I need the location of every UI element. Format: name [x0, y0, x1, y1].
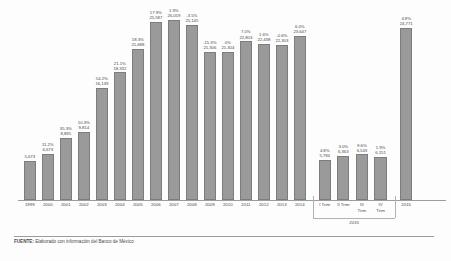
- bar-rect[interactable]: [240, 41, 252, 200]
- bar-slot[interactable]: 1.9%26,059: [168, 8, 180, 200]
- bar-amount-label: 21,306: [203, 45, 216, 50]
- x-tick-2010: 2010: [218, 202, 238, 207]
- bar-value-label: 54.2%16,139: [95, 76, 108, 86]
- bar-slot[interactable]: 4.8%24,771: [400, 8, 412, 200]
- bar-rect[interactable]: [132, 49, 144, 200]
- bar-rect[interactable]: [96, 88, 108, 200]
- bar-value-label: 1.9%6,151: [375, 145, 386, 155]
- bar-value-label: 35.3%8,895: [60, 126, 72, 136]
- bar-amount-label: 18,332: [113, 66, 126, 71]
- source-label: FUENTE:: [14, 239, 34, 244]
- x-tick-2000: 2000: [38, 202, 58, 207]
- bar-amount-label: 8,895: [61, 131, 72, 136]
- bar-slot[interactable]: 54.2%16,139: [96, 8, 108, 200]
- bar-value-label: 9.6%6,543: [357, 143, 368, 153]
- bar-rect[interactable]: [186, 25, 198, 200]
- bar-value-label: 21.1%18,332: [113, 61, 126, 71]
- bar-value-label: -0.6%22,303: [275, 33, 288, 43]
- bar-amount-label: 22,803: [239, 35, 252, 40]
- bar-amount-label: 5,673: [25, 154, 36, 159]
- bar-rect[interactable]: [114, 72, 126, 200]
- bar-rect[interactable]: [258, 44, 270, 200]
- bar-amount-label: 5,794: [319, 153, 330, 158]
- group-separator: [395, 196, 396, 218]
- chart-canvas: 5,67311.2%6,67335.3%8,89510.3%9,81454.2%…: [0, 0, 451, 261]
- bar-value-label: 18.3%21,688: [131, 37, 144, 47]
- bar-chart-plot-area: 5,67311.2%6,67335.3%8,89510.3%9,81454.2%…: [18, 8, 446, 200]
- quarter-group-underline: [313, 218, 395, 219]
- group-separator: [313, 196, 314, 218]
- source-note: FUENTE: Elaborado con información del Ba…: [14, 239, 134, 244]
- bar-rect[interactable]: [204, 52, 216, 200]
- bar-slot[interactable]: 0%21,304: [222, 8, 234, 200]
- bar-slot[interactable]: 3.0%6,363: [337, 8, 349, 200]
- bar-rect[interactable]: [276, 45, 288, 200]
- bar-value-label: 10.3%9,814: [78, 120, 90, 130]
- x-tick-2001: 2001: [56, 202, 76, 207]
- bar-slot[interactable]: 35.3%8,895: [60, 8, 72, 200]
- bar-slot[interactable]: 17.9%25,587: [150, 8, 162, 200]
- bar-slot[interactable]: 1.9%6,151: [374, 8, 386, 200]
- bar-amount-label: 6,673: [43, 147, 54, 152]
- bar-rect[interactable]: [400, 28, 412, 200]
- x-tick-ii-trim: II Trim: [333, 202, 353, 208]
- x-tick-2012: 2012: [254, 202, 274, 207]
- x-tick-2007: 2007: [164, 202, 184, 207]
- x-tick-2004: 2004: [110, 202, 130, 207]
- bar-slot[interactable]: -15.3%21,306: [204, 8, 216, 200]
- bar-slot[interactable]: 5,673: [24, 8, 36, 200]
- bar-rect[interactable]: [319, 160, 331, 200]
- bar-amount-label: 21,304: [221, 45, 234, 50]
- bar-value-label: 4.8%24,771: [400, 16, 413, 26]
- bar-value-label: -3.5%25,145: [185, 13, 198, 23]
- x-tick-2005: 2005: [128, 202, 148, 207]
- source-text: Elaborado con información del Banco de M…: [35, 239, 134, 244]
- bar-rect[interactable]: [356, 154, 368, 200]
- bar-value-label: 1.9%26,059: [167, 8, 180, 18]
- bar-amount-label: 22,303: [275, 38, 288, 43]
- bar-slot[interactable]: 6.0%23,647: [294, 8, 306, 200]
- x-tick-2014: 2014: [290, 202, 310, 207]
- bar-slot[interactable]: 21.1%18,332: [114, 8, 126, 200]
- bar-rect[interactable]: [294, 36, 306, 201]
- bar-rect[interactable]: [222, 52, 234, 200]
- x-tick-2008: 2008: [182, 202, 202, 207]
- bar-amount-label: 26,059: [167, 13, 180, 18]
- bar-value-label: 17.9%25,587: [149, 10, 162, 20]
- bar-value-label: 6.0%23,647: [293, 24, 306, 34]
- x-tick-2015: 2015: [396, 202, 416, 207]
- bar-rect[interactable]: [150, 22, 162, 200]
- bar-rect[interactable]: [337, 156, 349, 200]
- x-tick-iii-trim: IIITrim: [352, 202, 372, 213]
- bar-value-label: 11.2%6,673: [42, 142, 54, 152]
- bar-rect[interactable]: [24, 161, 36, 200]
- bar-slot[interactable]: 7.0%22,803: [240, 8, 252, 200]
- footer-divider: [14, 236, 434, 237]
- x-tick-2006: 2006: [146, 202, 166, 207]
- bar-rect[interactable]: [42, 154, 54, 200]
- bar-amount-label: 21,688: [131, 42, 144, 47]
- bar-amount-label: 25,587: [149, 15, 162, 20]
- x-tick-2013: 2013: [272, 202, 292, 207]
- bar-amount-label: 9,814: [79, 125, 90, 130]
- bar-slot[interactable]: 1.6%22,438: [258, 8, 270, 200]
- bar-amount-label: 25,145: [185, 18, 198, 23]
- bar-slot[interactable]: 9.6%6,543: [356, 8, 368, 200]
- bar-slot[interactable]: 18.3%21,688: [132, 8, 144, 200]
- bar-rect[interactable]: [60, 138, 72, 200]
- bar-slot[interactable]: 10.3%9,814: [78, 8, 90, 200]
- bar-rect[interactable]: [168, 20, 180, 200]
- bar-value-label: 7.0%22,803: [239, 29, 252, 39]
- bar-amount-label: 24,771: [400, 21, 413, 26]
- bar-slot[interactable]: 11.2%6,673: [42, 8, 54, 200]
- bar-amount-label: 23,647: [293, 29, 306, 34]
- bar-rect[interactable]: [78, 132, 90, 200]
- x-tick-2002: 2002: [74, 202, 94, 207]
- bar-slot[interactable]: 4.8%5,794: [319, 8, 331, 200]
- bar-value-label: 3.0%6,363: [338, 144, 349, 154]
- bar-slot[interactable]: -0.6%22,303: [276, 8, 288, 200]
- bar-rect[interactable]: [374, 157, 386, 200]
- x-tick-2009: 2009: [200, 202, 220, 207]
- bar-slot[interactable]: -3.5%25,145: [186, 8, 198, 200]
- bar-value-label: 0%21,304: [221, 40, 234, 50]
